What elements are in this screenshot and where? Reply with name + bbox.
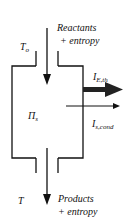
reactants-entropy-label: + entropy: [60, 36, 99, 46]
reactants-label: Reactants: [57, 23, 96, 33]
products-outflow-arrow: [43, 148, 51, 205]
products-label: Products: [58, 194, 94, 204]
control-volume-diagram: [0, 0, 135, 224]
temperature-subscript: o: [26, 46, 30, 54]
energy-flow-subscript: E,th: [96, 76, 107, 84]
pi-subscript: s: [35, 115, 38, 123]
ambient-temperature-label: To: [20, 42, 29, 54]
outlet-temperature-label: T: [18, 196, 24, 206]
entropy-conduction-arrow: [66, 103, 120, 109]
products-entropy-label: + entropy: [58, 207, 97, 217]
energy-flow-label: IE,th: [93, 72, 108, 84]
entropy-conduction-label: Is,cond: [92, 119, 113, 131]
entropy-flow-subscript: s,cond: [95, 123, 113, 131]
energy-thermal-arrow: [83, 82, 123, 97]
entropy-production-label: Πs: [28, 111, 38, 123]
reactants-inflow-arrow: [43, 28, 51, 85]
